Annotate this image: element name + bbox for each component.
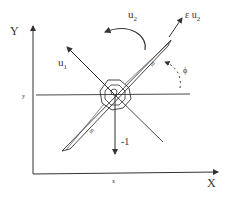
u2-label: u2 <box>128 8 138 23</box>
wing-inner-edge-2 <box>125 43 169 84</box>
eps-u2-arrow <box>169 18 182 37</box>
u2-moment-arrow <box>105 29 145 50</box>
x-tick-label: x <box>112 178 115 184</box>
u1-label: u1 <box>58 56 68 71</box>
wing-inner-edge <box>66 104 104 150</box>
mass-label-left: m <box>87 127 95 135</box>
x-axis <box>33 172 218 174</box>
y-tick-label: y <box>22 93 25 99</box>
y-axis-label: Y <box>10 24 19 38</box>
x-axis-label: X <box>207 176 216 190</box>
u1-thrust-line <box>67 47 114 94</box>
pvtol-diagram: Y X y x u1 u2 ε u2 -1 ϕ m m <box>0 0 229 197</box>
phi-label: ϕ <box>183 66 187 75</box>
phi-angle-arc <box>165 62 180 88</box>
mass-label-right: m <box>148 60 156 68</box>
eps-u2-label: ε u2 <box>185 9 201 23</box>
gravity-label: -1 <box>121 136 129 147</box>
diagonal-line <box>114 94 163 142</box>
